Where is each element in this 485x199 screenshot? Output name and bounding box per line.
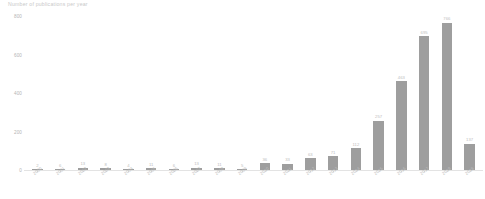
bar[interactable]: 11 xyxy=(214,16,224,170)
bar[interactable]: 13 xyxy=(78,16,88,170)
bar[interactable]: 71 xyxy=(328,16,338,170)
bar[interactable]: 766 xyxy=(442,16,452,170)
bar-value-label: 463 xyxy=(398,75,405,80)
x-axis: 2000200120022003200420052006200720082009… xyxy=(26,172,481,198)
x-axis-line xyxy=(24,170,483,171)
bar[interactable]: 11 xyxy=(146,16,156,170)
bar[interactable]: 137 xyxy=(464,16,474,170)
bar-rect xyxy=(396,81,406,170)
y-tick-label: 0 xyxy=(19,168,22,173)
y-tick-label: 800 xyxy=(14,14,22,19)
bar[interactable]: 695 xyxy=(419,16,429,170)
bar[interactable]: 6 xyxy=(169,16,179,170)
bar-value-label: 137 xyxy=(466,137,473,142)
bar[interactable]: 257 xyxy=(373,16,383,170)
bar-chart: Number of publications per year 02004006… xyxy=(0,0,485,199)
bar[interactable]: 13 xyxy=(191,16,201,170)
bar[interactable]: 36 xyxy=(260,16,270,170)
bar[interactable]: 33 xyxy=(282,16,292,170)
bar[interactable]: 463 xyxy=(396,16,406,170)
bar-rect xyxy=(373,121,383,170)
bar-value-label: 695 xyxy=(421,30,428,35)
y-tick-label: 200 xyxy=(14,129,22,134)
bar-value-label: 71 xyxy=(331,150,336,155)
bar-value-label: 33 xyxy=(285,157,290,162)
y-tick-label: 400 xyxy=(14,91,22,96)
y-axis: 0200400600800 xyxy=(0,16,24,170)
bar-rect xyxy=(419,36,429,170)
bar[interactable]: 5 xyxy=(237,16,247,170)
bar[interactable]: 4 xyxy=(123,16,133,170)
bar-rect xyxy=(442,23,452,170)
bar-value-label: 63 xyxy=(308,152,313,157)
bar[interactable]: 6 xyxy=(55,16,65,170)
bar[interactable]: 63 xyxy=(305,16,315,170)
y-tick-label: 600 xyxy=(14,52,22,57)
bar-value-label: 257 xyxy=(375,114,382,119)
bar-value-label: 766 xyxy=(443,16,450,21)
bar[interactable]: 112 xyxy=(351,16,361,170)
bar-value-label: 112 xyxy=(352,142,359,147)
chart-title: Number of publications per year xyxy=(8,1,88,8)
bar[interactable]: 8 xyxy=(100,16,110,170)
bars-layer: 2613841161311536336371112257463695766137 xyxy=(26,16,481,170)
bar-value-label: 36 xyxy=(262,157,267,162)
bar[interactable]: 2 xyxy=(32,16,42,170)
